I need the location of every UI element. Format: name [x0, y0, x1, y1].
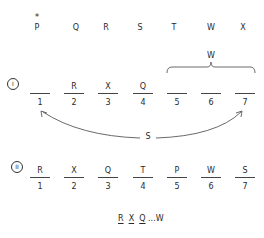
- arrow-label: S: [138, 132, 158, 141]
- summary-ellipsis: ...: [148, 214, 156, 223]
- slot-number: 3: [98, 182, 118, 191]
- brace-icon: [167, 62, 255, 73]
- section-1-label: I: [7, 78, 19, 90]
- summary-letter: Q: [139, 214, 145, 223]
- summary-sequence: R X Q ...W: [118, 214, 164, 223]
- slot-number: 6: [201, 182, 221, 191]
- slot-letter: Q: [133, 82, 153, 91]
- summary-last: W: [156, 214, 164, 223]
- slot-letter: P: [167, 166, 187, 175]
- slot-letter: R: [30, 166, 50, 175]
- slot-blank: [201, 177, 221, 178]
- slot-blank: [98, 177, 118, 178]
- slot-number: 1: [30, 182, 50, 191]
- slot-blank: [133, 177, 153, 178]
- slot-letter: W: [201, 166, 221, 175]
- slot-letter: Q: [98, 166, 118, 175]
- slot-letter: S: [235, 166, 255, 175]
- slot-number: 7: [235, 98, 255, 107]
- slot-number: 4: [133, 182, 153, 191]
- slot-blank: [167, 177, 187, 178]
- slot-blank: [30, 177, 50, 178]
- slot-blank: [201, 93, 221, 94]
- diagram-lines: [0, 0, 264, 238]
- section-2-label: II: [11, 161, 23, 173]
- slot-blank: [235, 93, 255, 94]
- slot-number: 5: [167, 98, 187, 107]
- slot-blank: [64, 177, 84, 178]
- slot-number: 1: [30, 98, 50, 107]
- slot-number: 4: [133, 98, 153, 107]
- slot-blank: [235, 177, 255, 178]
- slot-number: 2: [64, 182, 84, 191]
- curved-arrow-icon: [43, 112, 140, 138]
- slot-letter: T: [133, 166, 153, 175]
- slot-letter: X: [64, 166, 84, 175]
- slot-blank: [98, 93, 118, 94]
- slot-blank: [167, 93, 187, 94]
- slot-letter: X: [98, 82, 118, 91]
- slot-blank: [133, 93, 153, 94]
- slot-number: 7: [235, 182, 255, 191]
- summary-letter: R: [118, 214, 124, 223]
- slot-number: 5: [167, 182, 187, 191]
- slot-letter: R: [64, 82, 84, 91]
- slot-blank: [64, 93, 84, 94]
- slot-number: 2: [64, 98, 84, 107]
- slot-number: 6: [201, 98, 221, 107]
- summary-letter: X: [129, 214, 134, 223]
- slot-blank: [30, 93, 50, 94]
- slot-number: 3: [98, 98, 118, 107]
